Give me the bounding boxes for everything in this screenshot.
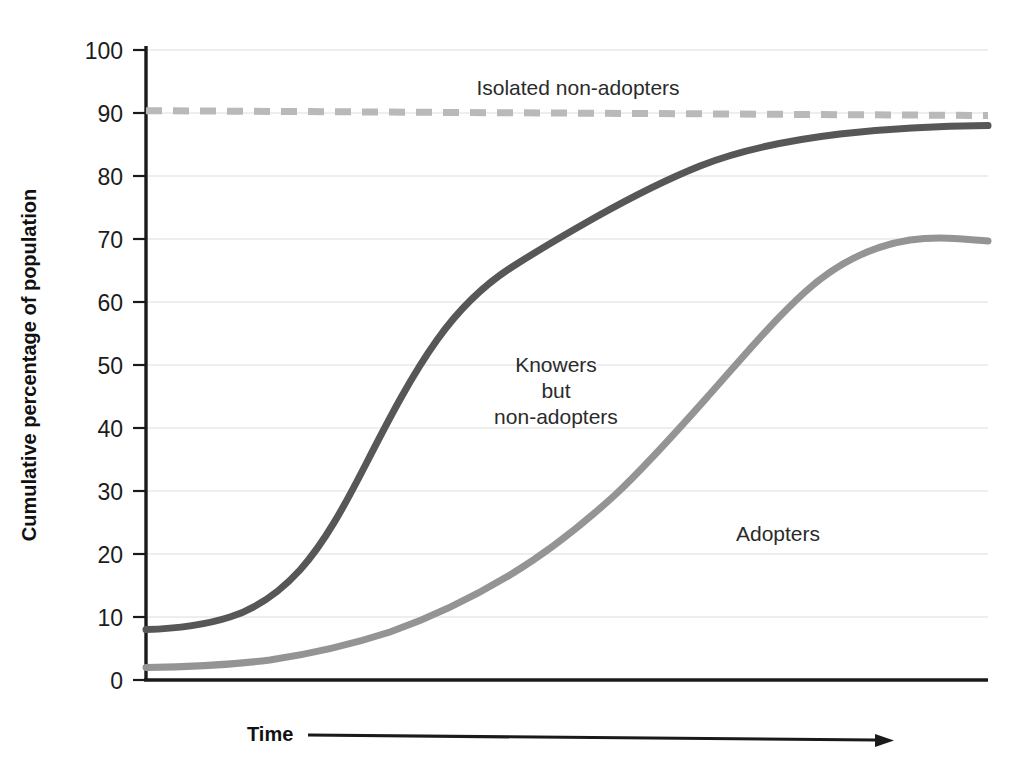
y-tick-label-10: 10 — [97, 605, 123, 631]
y-tick-label-20: 20 — [97, 542, 123, 568]
annotation-adopters: Adopters — [736, 522, 820, 545]
y-tick-label-0: 0 — [110, 668, 123, 694]
adoption-diffusion-line-chart: 100 90 80 70 60 50 40 30 20 10 0 Cumulat… — [0, 0, 1031, 775]
y-axis-title: Cumulative percentage of population — [18, 189, 40, 541]
y-tick-label-50: 50 — [97, 353, 123, 379]
y-tick-label-70: 70 — [97, 227, 123, 253]
x-axis-title: Time — [247, 723, 293, 745]
y-tick-label-30: 30 — [97, 479, 123, 505]
chart-figure: 100 90 80 70 60 50 40 30 20 10 0 Cumulat… — [0, 0, 1031, 775]
y-tick-label-80: 80 — [97, 164, 123, 190]
y-tick-label-60: 60 — [97, 290, 123, 316]
annotation-knowers-line-3: non-adopters — [494, 405, 618, 428]
annotation-isolated-non-adopters: Isolated non-adopters — [476, 76, 679, 99]
annotation-knowers-line-2: but — [541, 379, 570, 402]
annotation-knowers-line-1: Knowers — [515, 353, 597, 376]
y-tick-label-90: 90 — [97, 101, 123, 127]
y-tick-label-40: 40 — [97, 416, 123, 442]
y-tick-label-100: 100 — [85, 38, 123, 64]
